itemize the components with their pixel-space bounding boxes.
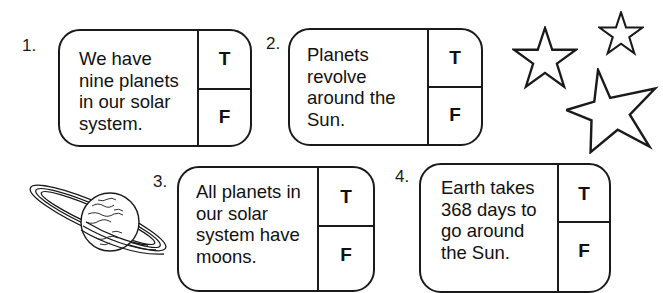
- answer-column: T F: [197, 31, 250, 145]
- false-option[interactable]: F: [559, 240, 609, 262]
- false-option[interactable]: F: [199, 106, 250, 128]
- answer-column: T F: [427, 30, 481, 144]
- star-icon: [598, 11, 644, 57]
- answer-divider: [319, 225, 373, 227]
- false-option[interactable]: F: [429, 104, 481, 126]
- question-number: 2.: [266, 34, 280, 54]
- saturn-icon: [26, 180, 170, 260]
- answer-divider: [559, 221, 609, 223]
- true-option[interactable]: T: [319, 186, 373, 208]
- answer-divider: [199, 88, 250, 90]
- question-statement: Earth takes 368 days to go around the Su…: [441, 177, 537, 263]
- question-card-3: All planets in our solar system have moo…: [177, 166, 375, 292]
- question-card-2: Planets revolve around the Sun. T F: [288, 28, 483, 146]
- answer-divider: [429, 86, 481, 88]
- question-card-1: We have nine planets in our solar system…: [58, 29, 252, 147]
- star-icon: [566, 68, 660, 154]
- question-statement: All planets in our solar system have moo…: [196, 181, 301, 267]
- question-number: 1.: [22, 36, 36, 56]
- question-statement: Planets revolve around the Sun.: [307, 44, 395, 130]
- answer-column: T F: [557, 165, 609, 291]
- question-statement: We have nine planets in our solar system…: [79, 48, 179, 134]
- answer-column: T F: [317, 168, 373, 290]
- true-option[interactable]: T: [199, 48, 250, 70]
- question-card-4: Earth takes 368 days to go around the Su…: [419, 163, 611, 293]
- true-option[interactable]: T: [429, 47, 481, 69]
- question-number: 4.: [395, 167, 409, 187]
- true-option[interactable]: T: [559, 183, 609, 205]
- false-option[interactable]: F: [319, 244, 373, 266]
